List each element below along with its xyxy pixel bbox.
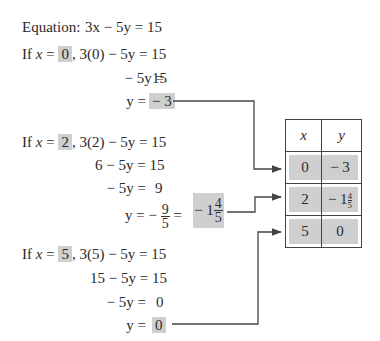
table-row: 0 − 3 <box>286 152 362 184</box>
cell-value: 2 <box>289 187 321 212</box>
cell-value: − 145 <box>322 187 358 212</box>
table-header-row: x y <box>286 120 362 152</box>
mixed-fraction: 45 <box>348 192 353 209</box>
arrow-row-3 <box>172 232 281 324</box>
header-x: x <box>286 120 322 152</box>
cell-value: 0 <box>289 155 321 180</box>
arrow-row-1 <box>173 101 281 169</box>
row-1-y: − 3 <box>322 152 362 184</box>
row-3-x: 5 <box>286 216 322 248</box>
cell-value: 5 <box>289 219 321 244</box>
row-2-y: − 145 <box>322 184 362 216</box>
row-1-x: 0 <box>286 152 322 184</box>
header-y-label: y <box>338 127 345 143</box>
fraction-denominator: 5 <box>348 201 353 209</box>
table-row: 5 0 <box>286 216 362 248</box>
xy-table: x y 0 − 3 2 − 145 5 0 <box>285 119 362 248</box>
cell-value: 0 <box>322 219 358 244</box>
header-x-label: x <box>300 127 307 143</box>
mixed-whole: − 1 <box>328 191 348 207</box>
arrow-row-2 <box>227 197 281 212</box>
table-row: 2 − 145 <box>286 184 362 216</box>
row-3-y: 0 <box>322 216 362 248</box>
cell-value: − 3 <box>322 155 358 180</box>
row-2-x: 2 <box>286 184 322 216</box>
header-y: y <box>322 120 362 152</box>
